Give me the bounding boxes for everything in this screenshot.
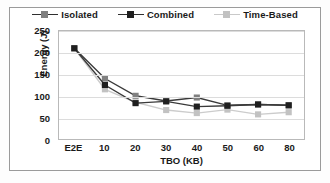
data-point-isolated xyxy=(102,75,108,81)
chart-figure: Isolated Combined Time-Based Energy (J) … xyxy=(0,0,330,183)
data-point-combined xyxy=(132,100,138,106)
data-point-time-based xyxy=(194,110,200,116)
legend-line-combined xyxy=(118,14,144,15)
gridline xyxy=(59,31,304,32)
y-axis-ticks: 050100150200250 xyxy=(16,0,50,183)
data-point-combined xyxy=(286,102,292,108)
x-tick-label: E2E xyxy=(64,142,82,153)
data-point-combined xyxy=(163,98,169,104)
legend-marker-combined xyxy=(127,11,134,18)
data-point-combined xyxy=(255,101,261,107)
y-tick-label: 100 xyxy=(16,91,50,102)
gridline xyxy=(59,97,304,98)
data-point-combined xyxy=(194,104,200,110)
y-tick-label: 250 xyxy=(16,25,50,36)
legend-item-time-based: Time-Based xyxy=(214,9,298,20)
data-point-combined xyxy=(71,45,77,51)
legend-line-time-based xyxy=(214,14,240,15)
x-tick-label: 10 xyxy=(99,142,110,153)
y-tick-label: 50 xyxy=(16,113,50,124)
x-tick-label: 20 xyxy=(130,142,141,153)
x-tick-label: 80 xyxy=(284,142,295,153)
legend-marker-time-based xyxy=(223,11,230,18)
x-tick-label: 30 xyxy=(161,142,172,153)
data-point-combined xyxy=(224,103,230,109)
plot-area xyxy=(58,30,305,140)
x-tick-label: 40 xyxy=(192,142,203,153)
x-tick-label: 60 xyxy=(253,142,264,153)
data-point-combined xyxy=(102,82,108,88)
legend-label-isolated: Isolated xyxy=(61,9,98,20)
data-point-time-based xyxy=(255,111,261,117)
legend-item-combined: Combined xyxy=(118,9,194,20)
gridline xyxy=(59,53,304,54)
x-axis-label: TBO (KB) xyxy=(58,155,305,166)
series-layer xyxy=(59,31,304,139)
y-tick-label: 150 xyxy=(16,69,50,80)
data-point-time-based xyxy=(286,109,292,115)
gridline xyxy=(59,119,304,120)
y-tick-label: 200 xyxy=(16,47,50,58)
legend-label-combined: Combined xyxy=(147,9,194,20)
y-tick-label: 0 xyxy=(16,135,50,146)
gridline xyxy=(59,75,304,76)
x-axis-ticks: E2E10203040506080 xyxy=(58,142,305,156)
legend-label-time-based: Time-Based xyxy=(243,9,298,20)
data-point-time-based xyxy=(163,107,169,113)
x-tick-label: 50 xyxy=(223,142,234,153)
